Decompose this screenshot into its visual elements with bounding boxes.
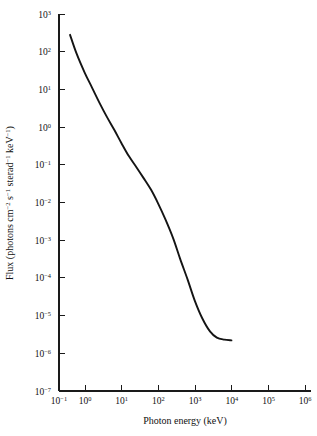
y-tick-label: 101: [38, 83, 51, 95]
y-axis-ticks: [59, 14, 65, 391]
y-tick-label: 10−4: [35, 272, 52, 284]
y-tick-label: 10−5: [35, 310, 51, 322]
y-tick-label: 10−3: [35, 234, 51, 246]
x-tick-label: 103: [189, 395, 202, 407]
x-tick-labels: 10−1 100 101 102 103 104 105 106: [51, 395, 312, 407]
y-tick-label: 10−7: [35, 385, 52, 397]
y-axis-title: Flux (photons cm−2 s−1 sterad−1 keV−1): [4, 126, 17, 280]
x-tick-label: 106: [299, 395, 312, 407]
x-tick-label: 102: [152, 395, 165, 407]
x-tick-label: 10−1: [51, 395, 67, 407]
y-tick-label: 10−1: [35, 159, 51, 171]
y-tick-label: 10−6: [35, 347, 51, 359]
figure-container: 103 102 101 100 10−1 10−2 10−3 10−4 10−5…: [0, 0, 317, 436]
x-axis-ticks: [59, 385, 305, 391]
y-tick-labels: 103 102 101 100 10−1 10−2 10−3 10−4 10−5…: [35, 8, 52, 397]
x-tick-label: 100: [79, 395, 92, 407]
flux-spectrum-curve: [70, 35, 231, 341]
log-log-plot: 103 102 101 100 10−1 10−2 10−3 10−4 10−5…: [0, 0, 317, 436]
y-tick-label: 10−2: [35, 197, 51, 209]
x-axis-title: Photon energy (keV): [143, 415, 227, 427]
x-tick-label: 104: [225, 395, 239, 407]
y-tick-label: 100: [38, 121, 51, 133]
y-tick-label: 103: [38, 8, 51, 20]
x-tick-label: 101: [115, 395, 128, 407]
y-tick-label: 102: [38, 46, 51, 58]
x-tick-label: 105: [262, 395, 275, 407]
